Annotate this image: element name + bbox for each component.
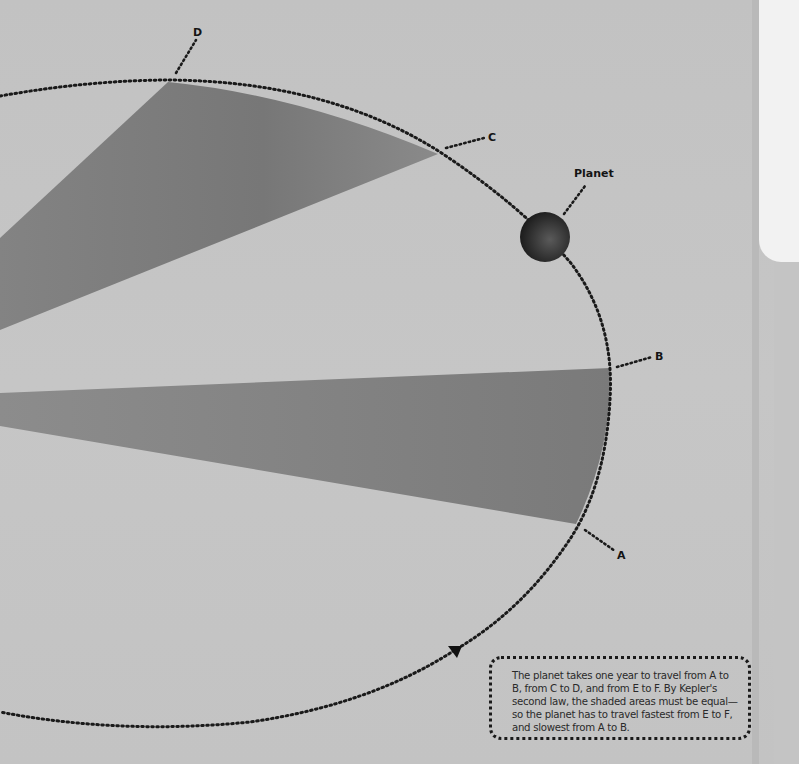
leader-line-d (176, 40, 196, 73)
shaded-area-cd (0, 82, 438, 330)
label-c: C (488, 131, 496, 144)
leader-line-a (585, 530, 615, 551)
shaded-area-ab (0, 368, 610, 524)
leader-line-c (446, 138, 484, 148)
label-planet: Planet (574, 167, 614, 180)
caption-text: The planet takes one year to travel from… (512, 669, 740, 734)
label-d: D (193, 26, 202, 39)
leader-line-planet (564, 186, 585, 214)
label-b: B (655, 350, 663, 363)
caption-box: The planet takes one year to travel from… (489, 656, 751, 740)
leader-line-b (617, 357, 652, 367)
planet-icon (520, 212, 570, 262)
label-a: A (617, 549, 626, 562)
